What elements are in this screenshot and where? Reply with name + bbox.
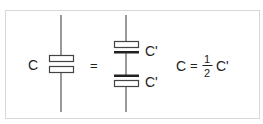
equals-sign: =: [90, 58, 98, 73]
lower-capacitor-plate-outline: [115, 81, 139, 87]
capacitor-plate-bottom: [50, 67, 74, 73]
lower-capacitor-plate-solid: [114, 75, 139, 78]
equation-equals: =: [190, 58, 198, 73]
capacitor-plate-top: [50, 56, 74, 62]
equation-lhs: C: [176, 58, 186, 74]
upper-capacitor-plate-outline: [115, 42, 139, 48]
equation-rhs: C': [216, 58, 229, 74]
fraction-numerator: 1: [204, 53, 210, 65]
upper-capacitor-label: C': [145, 43, 158, 59]
capacitor-label-c: C: [28, 57, 38, 73]
diagram-canvas: C = C' C' C = 1 2 C': [0, 0, 263, 124]
lower-capacitor-label: C': [145, 74, 158, 90]
fraction-denominator: 2: [204, 67, 210, 79]
